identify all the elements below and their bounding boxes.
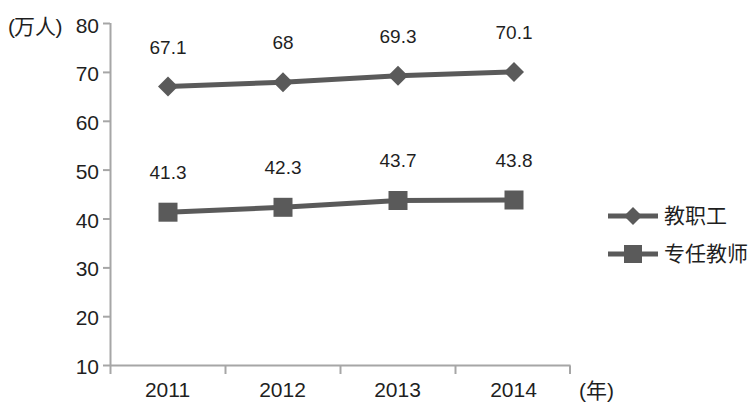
legend-item-jiaozhigong[interactable]: 教职工 [664,205,727,226]
legend-marker-zhuanrenjiaoshi [608,245,658,263]
data-label-zhuanrenjiaoshi-2014: 43.8 [474,151,554,170]
data-label-zhuanrenjiaoshi-2012: 42.3 [243,158,323,177]
data-label-jiaozhigong-2014: 70.1 [474,23,554,42]
x-tick-label-2014: 2014 [456,379,571,400]
legend-item-zhuanrenjiaoshi[interactable]: 专任教师 [664,243,748,264]
y-tick-label-30: 30 [57,258,99,279]
y-tick-label-40: 40 [57,210,99,231]
x-tick-label-2012: 2012 [225,379,340,400]
data-label-jiaozhigong-2011: 67.1 [128,38,208,57]
y-tick-label-60: 60 [57,112,99,133]
y-tick-marks [103,24,110,366]
y-tick-label-80: 80 [57,15,99,36]
data-label-zhuanrenjiaoshi-2013: 43.7 [358,151,438,170]
y-tick-label-10: 10 [57,356,99,377]
line-chart: (万人) 80 70 60 50 40 30 20 10 2011 2012 2… [0,0,749,409]
x-tick-label-2013: 2013 [340,379,455,400]
data-label-jiaozhigong-2013: 69.3 [358,27,438,46]
data-label-jiaozhigong-2012: 68 [243,33,323,52]
series-line-zhuanrenjiaoshi [168,200,514,212]
x-tick-label-2011: 2011 [110,379,225,400]
x-axis-unit-label: (年) [579,380,614,401]
data-label-zhuanrenjiaoshi-2011: 41.3 [128,163,208,182]
y-tick-label-20: 20 [57,307,99,328]
chart-canvas [0,0,749,409]
series-line-jiaozhigong [168,72,514,87]
x-tick-marks [111,366,571,375]
y-tick-label-70: 70 [57,63,99,84]
y-axis-unit-label: (万人) [8,16,62,37]
y-tick-label-50: 50 [57,161,99,182]
legend-marker-jiaozhigong [608,207,658,225]
